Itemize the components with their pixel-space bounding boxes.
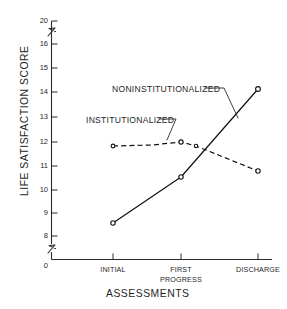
y-tick-label-13: 13 [32,112,48,121]
chart-figure: 20 16 15 14 13 12 11 10 9 8 0 LIFE SATIS… [0,0,287,309]
series-institutionalized-line [113,142,258,171]
y-tick-label-10: 10 [32,185,48,194]
data-point-noninstitutionalized-first-progress [179,175,183,179]
x-tick-label-first: FIRST [151,265,211,274]
data-point-institutionalized-mid [194,144,197,147]
x-tick-label-discharge: DISCHARGE [228,265,287,274]
data-point-institutionalized-discharge [256,169,260,173]
series-noninstitutionalized-line [113,89,258,223]
annotation-institutionalized-text: INSTITUTIONALIZED [86,115,174,125]
y-tick-label-14: 14 [32,87,48,96]
data-point-noninstitutionalized-discharge [256,87,261,92]
data-point-noninstitutionalized-initial [111,221,115,225]
y-tick-label-11: 11 [32,161,48,170]
y-axis-title: LIFE SATISFACTION SCORE [19,46,30,196]
y-tick-label-16: 16 [32,39,48,48]
y-tick-label-20: 20 [32,16,48,25]
y-axis-break-lower [48,245,56,253]
annotation-noninstitutionalized: NONINSTITUTIONALIZED [112,84,220,94]
y-tick-label-0: 0 [32,261,48,270]
x-tick-label-progress: PROGRESS [151,275,211,284]
data-point-institutionalized-initial [111,144,115,148]
data-point-institutionalized-first-progress [179,140,183,144]
x-axis-title: ASSESSMENTS [106,288,189,299]
y-axis-title-text: LIFE SATISFACTION SCORE [19,46,30,196]
annotation-noninstitutionalized-text: NONINSTITUTIONALIZED [112,84,220,94]
y-tick-label-9: 9 [32,208,48,217]
x-axis-title-text: ASSESSMENTS [106,288,189,299]
y-tick-label-8: 8 [32,231,48,240]
x-tick-label-initial: INITIAL [83,265,143,274]
annotation-institutionalized: INSTITUTIONALIZED [86,115,174,125]
y-tick-label-12: 12 [32,137,48,146]
y-tick-label-15: 15 [32,63,48,72]
